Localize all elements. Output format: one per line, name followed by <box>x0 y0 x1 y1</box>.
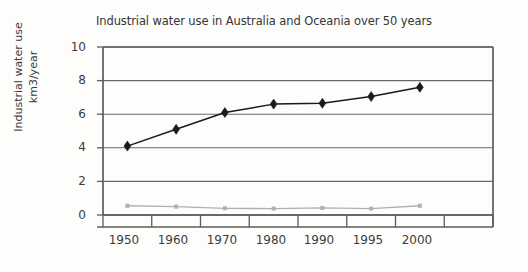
series-line <box>127 87 420 146</box>
data-point-marker <box>272 207 276 211</box>
plot-area <box>0 0 528 272</box>
x-axis-ticks <box>103 215 493 227</box>
data-point-marker <box>173 124 180 134</box>
data-point-marker <box>416 82 423 92</box>
data-point-marker <box>270 99 277 109</box>
data-point-marker <box>223 206 227 210</box>
series-2 <box>125 204 422 211</box>
data-series-layer <box>124 82 423 210</box>
data-point-marker <box>319 98 326 108</box>
chart-figure: Industrial water use in Australia and Oc… <box>0 0 528 272</box>
data-point-marker <box>124 141 131 151</box>
data-point-marker <box>320 206 324 210</box>
data-point-marker <box>125 204 129 208</box>
data-point-marker <box>174 205 178 209</box>
gridlines <box>103 47 493 215</box>
y-axis-ticks <box>97 47 103 215</box>
data-point-marker <box>368 92 375 102</box>
data-point-marker <box>418 204 422 208</box>
data-point-marker <box>221 108 228 118</box>
series-1 <box>124 82 423 151</box>
axis-lines <box>97 47 493 227</box>
data-point-marker <box>369 207 373 211</box>
